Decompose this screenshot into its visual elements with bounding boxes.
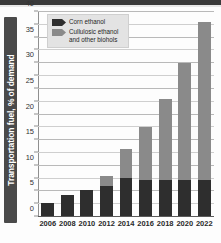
bar-segment-cellulosic <box>159 99 172 180</box>
y-tick-label: 5 <box>30 178 34 187</box>
y-axis-title-bar: Transportation fuel, % of demand <box>4 17 17 223</box>
bar-segment-corn <box>100 186 113 217</box>
bar-column <box>155 12 175 217</box>
bar-stack <box>100 176 113 217</box>
chart-legend: Corn ethanol Cullulosic ethanoland other… <box>47 14 129 48</box>
x-tick-label: 2022 <box>195 219 215 228</box>
legend-item-corn-ethanol: Corn ethanol <box>52 18 125 26</box>
x-tick-label: 2012 <box>97 219 117 228</box>
y-tick-label: 30 <box>26 50 34 59</box>
bar-stack <box>159 99 172 217</box>
x-tick-label: 2006 <box>38 219 58 228</box>
legend-label-cellulosic-ethanol: Cullulosic ethanoland other biohols <box>69 28 118 44</box>
bar-segment-cellulosic <box>198 22 211 180</box>
bar-segment-cellulosic <box>178 63 191 180</box>
legend-label-line2: and other biohols <box>69 36 117 43</box>
bar-stack <box>198 22 211 217</box>
chart-figure: Transportation fuel, % of demand 0510152… <box>0 0 221 243</box>
x-tick-label: 2008 <box>58 219 78 228</box>
x-tick-label: 2020 <box>175 219 195 228</box>
legend-item-cellulosic-ethanol: Cullulosic ethanoland other biohols <box>52 28 125 44</box>
y-tick-label: 10 <box>26 152 34 161</box>
x-tick-label: 2016 <box>136 219 156 228</box>
bar-segment-corn <box>120 178 133 217</box>
bar-column <box>175 12 195 217</box>
bar-segment-cellulosic <box>120 149 133 177</box>
x-tick-label: 2014 <box>116 219 136 228</box>
bar-stack <box>80 190 93 217</box>
dark-arrow-swatch-icon <box>52 19 66 26</box>
y-tick-label: 0 <box>30 204 34 213</box>
bar-segment-corn <box>80 190 93 217</box>
x-tick-label: 2018 <box>155 219 175 228</box>
x-axis-tick-labels: 200620082010201220142016201820202022 <box>38 219 214 233</box>
bar-column <box>136 12 156 217</box>
bar-stack <box>120 149 133 217</box>
bar-segment-cellulosic <box>100 176 113 186</box>
bar-segment-corn <box>178 180 191 217</box>
bar-segment-cellulosic <box>139 127 152 180</box>
legend-label-line1: Cullulosic ethanol <box>69 28 118 35</box>
bar-segment-corn <box>61 195 74 217</box>
legend-label-corn-ethanol: Corn ethanol <box>69 18 105 26</box>
x-tick-label: 2010 <box>77 219 97 228</box>
gray-arrow-swatch-icon <box>52 29 66 36</box>
y-tick-label: 25 <box>26 75 34 84</box>
y-axis-title: Transportation fuel, % of demand <box>6 54 16 185</box>
y-tick-label: 20 <box>26 101 34 110</box>
bar-segment-corn <box>159 180 172 217</box>
y-tick-label: 15 <box>26 127 34 136</box>
bar-stack <box>61 195 74 217</box>
bar-stack <box>178 63 191 217</box>
x-axis-line <box>38 216 214 218</box>
bar-segment-corn <box>198 180 211 217</box>
bar-column <box>195 12 215 217</box>
y-tick-label: 35 <box>26 24 34 33</box>
bar-segment-corn <box>139 180 152 217</box>
y-tick-label: 40 <box>26 0 34 8</box>
bar-stack <box>139 127 152 217</box>
